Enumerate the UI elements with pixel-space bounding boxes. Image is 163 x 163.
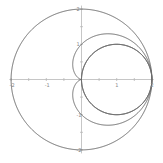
x-tick-label: 1 (115, 82, 118, 88)
x-tick-label: -2 (10, 82, 15, 88)
x-tick-label: -1 (45, 82, 50, 88)
x-tick-label: 2 (150, 82, 153, 88)
y-tick-label: -1 (77, 112, 82, 118)
plot-canvas: -2-11221-1-2 (0, 0, 163, 163)
y-tick-label: -2 (77, 147, 82, 153)
polar-diagram: -2-11221-1-2 (0, 0, 163, 163)
y-tick-label: 1 (77, 41, 80, 47)
y-tick-label: 2 (77, 6, 80, 12)
